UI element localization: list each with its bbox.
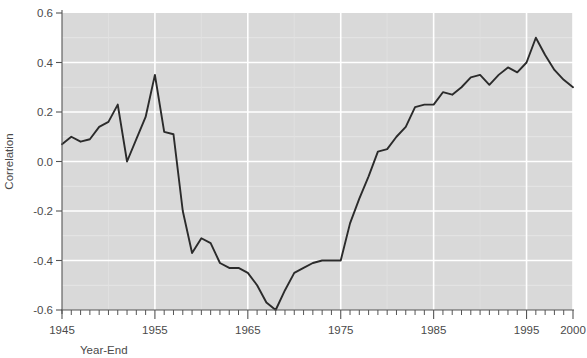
x-tick-label: 1965 [235, 324, 261, 336]
y-tick-label: 0.4 [37, 57, 54, 69]
y-tick-label: 0.2 [37, 106, 53, 118]
y-tick-label: -0.2 [33, 205, 53, 217]
x-tick-label: 1995 [514, 324, 540, 336]
y-tick-label: -0.6 [33, 304, 53, 316]
x-tick-label: 1955 [142, 324, 168, 336]
x-tick-label: 2000 [560, 324, 586, 336]
x-tick-label: 1945 [49, 324, 75, 336]
y-tick-label: 0.0 [37, 156, 53, 168]
correlation-line-chart: 0.60.40.20.0-0.2-0.4-0.6 194519551965197… [0, 0, 587, 358]
x-axis-title: Year-End [80, 344, 128, 356]
y-tick-label: 0.6 [37, 7, 53, 19]
y-axis-title: Correlation [3, 133, 15, 189]
x-tick-label: 1975 [328, 324, 354, 336]
y-tick-label: -0.4 [33, 255, 53, 267]
x-tick-label: 1985 [421, 324, 447, 336]
chart-container: 0.60.40.20.0-0.2-0.4-0.6 194519551965197… [0, 0, 587, 358]
